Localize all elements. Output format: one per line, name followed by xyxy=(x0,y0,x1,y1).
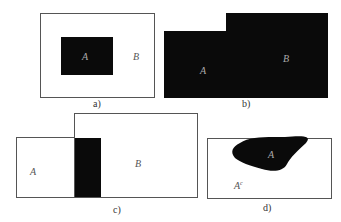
panel-d-label-a: A xyxy=(268,150,274,160)
complement-superscript: c xyxy=(240,180,243,186)
panel-d-caption: d) xyxy=(263,203,271,213)
panel-d-label-a-complement: Ac xyxy=(234,180,243,191)
panel-d-set-a-blob xyxy=(0,0,341,222)
